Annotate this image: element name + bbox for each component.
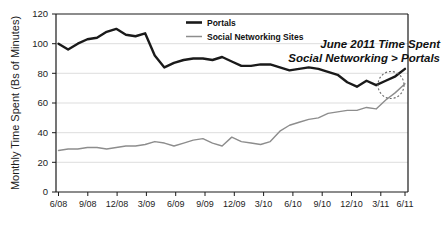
legend-label-social-networking-sites: Social Networking Sites bbox=[207, 32, 304, 42]
y-tick-label: 100 bbox=[32, 38, 48, 49]
x-tick-label: 6/08 bbox=[50, 199, 68, 209]
annotation-line-2: Social Networking > Portals bbox=[288, 52, 440, 64]
y-tick-label: 80 bbox=[37, 68, 48, 79]
y-axis-ticks: 0 20 40 60 80 100 120 bbox=[32, 8, 56, 197]
x-tick-label: 12/10 bbox=[340, 199, 363, 209]
x-tick-label: 3/09 bbox=[138, 199, 156, 209]
annotation-line-1: June 2011 Time Spent bbox=[320, 38, 441, 50]
x-tick-label: 9/08 bbox=[79, 199, 97, 209]
crossover-annotation: June 2011 Time Spent Social Networking >… bbox=[288, 38, 441, 64]
x-tick-label: 9/09 bbox=[196, 199, 214, 209]
crossover-highlight-ellipse bbox=[378, 72, 404, 99]
x-tick-label: 12/08 bbox=[106, 199, 129, 209]
legend-label-portals: Portals bbox=[207, 18, 236, 28]
x-tick-label: 3/11 bbox=[372, 199, 389, 209]
x-tick-label: 3/10 bbox=[255, 199, 273, 209]
y-axis-label: Monthly Time Spent (Bs of Minutes) bbox=[9, 16, 21, 190]
legend: Portals Social Networking Sites bbox=[186, 18, 304, 42]
y-tick-label: 40 bbox=[37, 127, 48, 138]
x-tick-label: 12/09 bbox=[223, 199, 246, 209]
y-tick-label: 20 bbox=[37, 157, 48, 168]
x-tick-label: 9/10 bbox=[313, 199, 331, 209]
x-tick-label: 6/09 bbox=[167, 199, 185, 209]
y-tick-label: 60 bbox=[37, 97, 48, 108]
x-tick-label: 6/10 bbox=[284, 199, 302, 209]
x-tick-label: 6/11 bbox=[397, 199, 414, 209]
line-chart: 0 20 40 60 80 100 120 6/08 9/08 12/08 bbox=[0, 0, 448, 225]
y-tick-label: 120 bbox=[32, 8, 48, 19]
chart-container: 0 20 40 60 80 100 120 6/08 9/08 12/08 bbox=[0, 0, 448, 225]
y-tick-label: 0 bbox=[43, 186, 48, 197]
x-axis-ticks: 6/08 9/08 12/08 3/09 6/09 9/09 12/09 3/1… bbox=[50, 192, 414, 209]
series-line-social-networking-sites bbox=[59, 84, 406, 151]
